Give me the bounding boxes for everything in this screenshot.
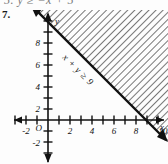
- cut-off-equation-text: 5. y ≥ −x + 5: [4, 0, 74, 8]
- origin-label: O: [36, 123, 43, 133]
- y-tick-label-4: 4: [36, 82, 41, 92]
- y-tick-label-6: 6: [36, 60, 41, 70]
- problem-number: 7.: [2, 8, 10, 20]
- textbook-figure-page: 5. y ≥ −x + 5 7.: [0, 0, 168, 164]
- x-tick-label-6: 6: [112, 126, 117, 136]
- y-tick-label-8: 8: [36, 38, 41, 48]
- graph-svg: -2 2 4 6 8 10 8 6 4 2 -2 O: [14, 10, 168, 164]
- cut-off-equation-strip: 5. y ≥ −x + 5: [0, 0, 168, 9]
- y-axis-variable-label: y: [54, 16, 59, 26]
- x-tick-label-2: 2: [68, 126, 73, 136]
- y-tick-label--2: -2: [33, 138, 41, 148]
- x-tick-label-8: 8: [134, 126, 139, 136]
- coordinate-plane-graph: -2 2 4 6 8 10 8 6 4 2 -2 O: [14, 10, 168, 164]
- y-axis-arrow-down: [44, 154, 51, 163]
- y-tick-label-2: 2: [36, 104, 41, 114]
- x-axis-variable-label: x: [159, 122, 164, 132]
- x-tick-label-4: 4: [90, 126, 95, 136]
- x-tick-label--2: -2: [22, 126, 30, 136]
